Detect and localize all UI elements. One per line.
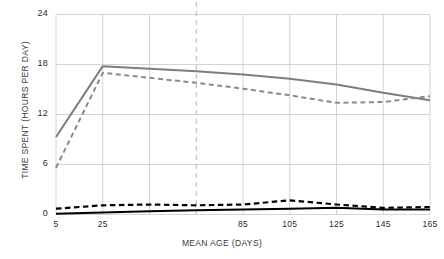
chart-figure: TIME SPENT (HOURS PER DAY) MEAN AGE (DAY… [0, 0, 444, 259]
plot-area [0, 0, 444, 259]
gridlines [56, 15, 430, 215]
